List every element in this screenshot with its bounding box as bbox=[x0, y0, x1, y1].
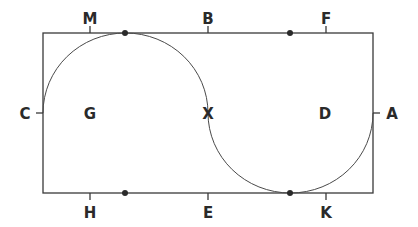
label-k: K bbox=[320, 204, 333, 222]
label-h: H bbox=[84, 204, 97, 222]
label-g: G bbox=[84, 105, 96, 123]
point-top-left bbox=[122, 30, 128, 36]
point-bottom-left bbox=[122, 190, 128, 196]
point-bottom-right bbox=[287, 190, 293, 196]
label-m: M bbox=[83, 10, 98, 28]
lower-semicircle bbox=[208, 113, 373, 193]
label-d: D bbox=[319, 105, 331, 123]
label-f: F bbox=[321, 10, 331, 28]
label-b: B bbox=[202, 10, 213, 28]
label-e: E bbox=[203, 204, 213, 222]
label-a: A bbox=[386, 105, 398, 123]
label-c: C bbox=[19, 105, 30, 123]
point-top-right bbox=[287, 30, 293, 36]
upper-semicircle bbox=[43, 33, 208, 113]
label-x: X bbox=[202, 105, 214, 123]
diagram-canvas: M B F C G X D A H E K bbox=[0, 0, 418, 227]
